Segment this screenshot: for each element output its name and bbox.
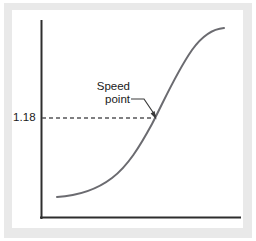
speed-point-annotation-line1: Speed — [60, 80, 130, 93]
speed-point-annotation-line2: point — [60, 93, 130, 106]
data-curve — [57, 28, 224, 197]
plot-graphics — [0, 0, 256, 241]
figure-container: 1.18 Speed point — [0, 0, 256, 241]
speed-point-annotation: Speed point — [60, 80, 130, 106]
y-axis-tick-label: 1.18 — [13, 112, 36, 124]
